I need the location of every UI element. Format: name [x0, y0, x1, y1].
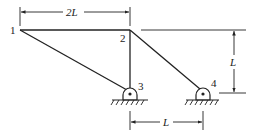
- node-label-2: 2: [120, 32, 126, 44]
- dimension-right-label: L: [229, 56, 236, 68]
- truss-diagram: 1 2 3 4 2L L L: [0, 0, 253, 139]
- members: [20, 30, 200, 90]
- node-label-1: 1: [10, 24, 16, 36]
- truss-svg: 1 2 3 4 2L L L: [0, 0, 253, 139]
- member-1-3: [20, 30, 127, 90]
- node-label-4: 4: [211, 77, 217, 89]
- node-label-3: 3: [138, 80, 144, 92]
- pin-support-4: [185, 88, 219, 105]
- dimension-top-label: 2L: [66, 6, 78, 18]
- dimension-bottom-label: L: [162, 116, 169, 128]
